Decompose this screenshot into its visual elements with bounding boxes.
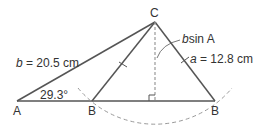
vertex-a-label: A: [13, 105, 21, 117]
side-b-label: b = 20.5 cm: [16, 57, 79, 69]
right-angle-marker: [149, 95, 155, 101]
angle-a-label: 29.3°: [40, 89, 68, 101]
height-var: b: [182, 32, 189, 46]
side-b-var: b: [16, 56, 23, 70]
side-a-label: a = 12.8 cm: [190, 53, 253, 65]
side-a-ambiguous: [92, 22, 155, 101]
vertex-b2-label: B: [211, 105, 219, 117]
side-b-value: = 20.5 cm: [23, 56, 79, 70]
vertex-c-label: C: [150, 7, 159, 19]
height-label: bsin A: [182, 33, 215, 45]
label-pointer: [157, 40, 180, 58]
vertex-b1-label: B: [88, 105, 96, 117]
height-expr: sin A: [189, 32, 215, 46]
side-a-value: = 12.8 cm: [197, 52, 253, 66]
side-a-var: a: [190, 52, 197, 66]
